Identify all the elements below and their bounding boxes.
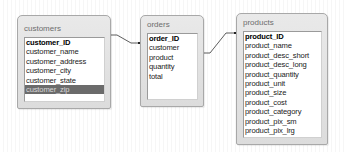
relationship-orders-products[interactable] — [202, 32, 236, 54]
field-product-desc-long[interactable]: product_desc_long — [244, 60, 321, 69]
field-product-desc-short[interactable]: product_desc_short — [244, 51, 321, 60]
field-customer-state[interactable]: customer_state — [25, 76, 104, 85]
field-customer-zip[interactable]: customer_zip — [25, 85, 104, 94]
field-product-pix-sm[interactable]: product_pix_sm — [244, 117, 321, 126]
field-list[interactable]: product_ID product_name product_desc_sho… — [243, 31, 322, 138]
field-order-id[interactable]: order_ID — [148, 34, 197, 43]
field-list[interactable]: order_ID customer product quantity total — [147, 33, 198, 100]
field-list[interactable]: customer_ID customer_name customer_addre… — [24, 37, 105, 102]
field-total[interactable]: total — [148, 72, 197, 81]
table-orders[interactable]: orders order_ID customer product quantit… — [140, 15, 204, 107]
field-customer-city[interactable]: customer_city — [25, 66, 104, 75]
table-customers[interactable]: customers customer_ID customer_name cust… — [17, 15, 111, 109]
field-product-unit[interactable]: product_unit — [244, 79, 321, 88]
field-customer-id[interactable]: customer_ID — [25, 38, 104, 47]
field-product-id[interactable]: product_ID — [244, 32, 321, 41]
field-product-size[interactable]: product_size — [244, 88, 321, 97]
relationship-customers-orders[interactable] — [109, 34, 140, 44]
field-quantity[interactable]: quantity — [148, 62, 197, 71]
field-customer-name[interactable]: customer_name — [25, 47, 104, 56]
field-customer[interactable]: customer — [148, 43, 197, 52]
field-product[interactable]: product — [148, 53, 197, 62]
table-title: customers — [24, 24, 61, 34]
field-product-cost[interactable]: product_cost — [244, 98, 321, 107]
table-title: products — [243, 18, 274, 28]
field-product-pix-lrg[interactable]: product_pix_lrg — [244, 126, 321, 135]
field-product-category[interactable]: product_category — [244, 107, 321, 116]
table-title: orders — [147, 20, 170, 30]
field-product-quantity[interactable]: product_quantity — [244, 70, 321, 79]
table-products[interactable]: products product_ID product_name product… — [236, 13, 328, 145]
field-customer-address[interactable]: customer_address — [25, 57, 104, 66]
field-product-name[interactable]: product_name — [244, 41, 321, 50]
